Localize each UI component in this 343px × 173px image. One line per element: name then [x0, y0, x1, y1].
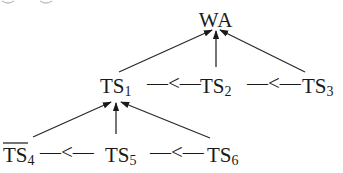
- connector-ts1-ts2: —<—: [146, 71, 202, 95]
- hierarchy-diagram: WA TS1 —<— TS2 —<— TS3 TS4 —<— TS5 —<— T…: [0, 0, 343, 173]
- node-ts3: TS3: [302, 74, 334, 99]
- edge-ts6-ts1: [121, 102, 210, 138]
- node-ts1: TS1: [100, 74, 132, 99]
- node-ts5: TS5: [105, 143, 137, 168]
- connector-ts4-ts5: —<—: [39, 140, 95, 164]
- node-ts4: TS4: [3, 143, 35, 168]
- node-wa: WA: [199, 8, 234, 32]
- connector-ts2-ts3: —<—: [246, 71, 302, 95]
- edge-ts4-ts1: [33, 102, 111, 137]
- node-ts2: TS2: [200, 74, 232, 99]
- edge-ts1-wa: [119, 30, 212, 72]
- connector-ts5-ts6: —<—: [149, 140, 205, 164]
- node-ts6: TS6: [207, 143, 239, 168]
- cropped-text-fragment: [2, 1, 52, 3]
- edge-ts3-wa: [220, 30, 305, 72]
